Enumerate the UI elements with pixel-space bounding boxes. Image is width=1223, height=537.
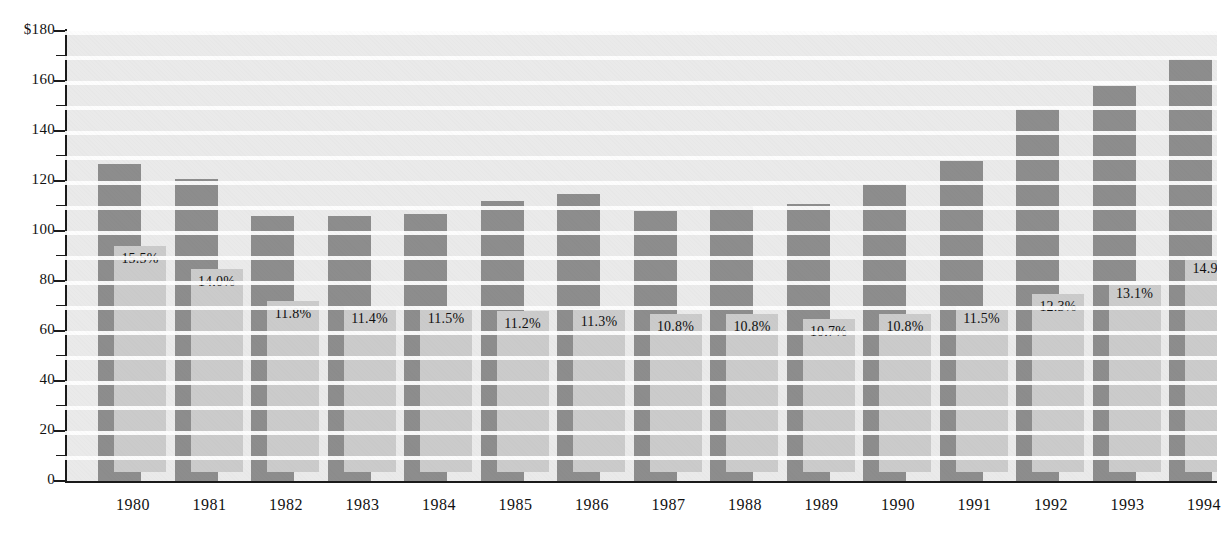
bar-subtotal: 10.8% xyxy=(726,314,778,473)
bar-group: 14.0% xyxy=(175,31,245,481)
bar-subtotal: 11.3% xyxy=(573,309,625,473)
y-tick-minor xyxy=(56,205,65,206)
bar-group: 11.5% xyxy=(940,31,1010,481)
plot-area: 15.5%14.0%11.8%11.4%11.5%11.2%11.3%10.8%… xyxy=(65,31,1217,481)
bar-group: 10.8% xyxy=(863,31,933,481)
bar-data-label: 11.2% xyxy=(497,316,549,332)
y-axis-tick-label: 120 xyxy=(0,171,55,188)
y-tick-major xyxy=(54,430,65,432)
y-tick-major xyxy=(54,130,65,132)
y-tick-major xyxy=(54,30,65,32)
y-axis-tick-label: 20 xyxy=(0,421,55,438)
y-tick-minor xyxy=(56,155,65,156)
y-axis-tick-label: $180 xyxy=(0,21,55,38)
bar-data-label: 15.5% xyxy=(114,251,166,267)
y-tick-minor xyxy=(56,405,65,406)
y-tick-major xyxy=(54,480,65,482)
y-tick-minor xyxy=(56,105,65,106)
bar-data-label: 11.8% xyxy=(267,306,319,322)
bar-data-label: 11.3% xyxy=(573,314,625,330)
y-axis-tick-label: 80 xyxy=(0,271,55,288)
y-tick-minor xyxy=(56,355,65,356)
bar-subtotal: 10.8% xyxy=(650,314,702,473)
bar-data-label: 12.3% xyxy=(1032,299,1084,315)
bar-subtotal: 10.7% xyxy=(803,319,855,473)
bar-data-label: 10.8% xyxy=(650,319,702,335)
bar-subtotal: 11.4% xyxy=(344,306,396,472)
x-axis-tick-label: 1994 xyxy=(1159,496,1223,514)
bar-group: 15.5% xyxy=(98,31,168,481)
bar-data-label: 14.0% xyxy=(191,274,243,290)
bar-subtotal: 12.3% xyxy=(1032,294,1084,473)
y-tick-major xyxy=(54,230,65,232)
bar-group: 11.4% xyxy=(328,31,398,481)
y-tick-major xyxy=(54,80,65,82)
bar-group: 10.8% xyxy=(710,31,780,481)
bar-group: 13.1% xyxy=(1093,31,1163,481)
bar-data-label: 11.5% xyxy=(420,311,472,327)
bar-group: 10.7% xyxy=(787,31,857,481)
x-axis-line xyxy=(65,481,1217,483)
y-tick-minor xyxy=(56,255,65,256)
y-tick-minor xyxy=(56,455,65,456)
y-axis-tick-label: 140 xyxy=(0,121,55,138)
y-tick-major xyxy=(54,380,65,382)
y-axis-tick-label: 100 xyxy=(0,221,55,238)
bar-subtotal: 14.9% xyxy=(1185,256,1217,472)
bar-group: 11.5% xyxy=(404,31,474,481)
bar-subtotal: 14.0% xyxy=(191,269,243,473)
y-tick-major xyxy=(54,330,65,332)
bar-data-label: 11.5% xyxy=(956,311,1008,327)
bar-group: 12.3% xyxy=(1016,31,1086,481)
y-tick-minor xyxy=(56,55,65,56)
bar-data-label: 11.4% xyxy=(344,311,396,327)
bar-subtotal: 11.5% xyxy=(420,306,472,472)
bar-subtotal: 11.2% xyxy=(497,311,549,472)
bar-subtotal: 10.8% xyxy=(879,314,931,473)
y-axis-line xyxy=(65,29,67,483)
bar-group: 10.8% xyxy=(634,31,704,481)
bar-subtotal: 11.5% xyxy=(956,306,1008,472)
bar-data-label: 14.9% xyxy=(1185,261,1217,277)
bar-data-label: 10.8% xyxy=(726,319,778,335)
y-axis-tick-label: 60 xyxy=(0,321,55,338)
y-axis-tick-label: 40 xyxy=(0,371,55,388)
bar-group: 11.8% xyxy=(251,31,321,481)
bar-group: 14.9% xyxy=(1169,31,1217,481)
y-tick-major xyxy=(54,280,65,282)
bar-chart: 15.5%14.0%11.8%11.4%11.5%11.2%11.3%10.8%… xyxy=(0,0,1223,537)
bar-data-label: 13.1% xyxy=(1109,286,1161,302)
y-tick-minor xyxy=(56,305,65,306)
bar-group: 11.3% xyxy=(557,31,627,481)
y-axis-tick-label: 0 xyxy=(0,471,55,488)
bar-data-label: 10.8% xyxy=(879,319,931,335)
bar-subtotal: 11.8% xyxy=(267,301,319,472)
y-tick-major xyxy=(54,180,65,182)
y-axis-tick-label: 160 xyxy=(0,71,55,88)
bar-group: 11.2% xyxy=(481,31,551,481)
bar-subtotal: 13.1% xyxy=(1109,281,1161,472)
bar-subtotal: 15.5% xyxy=(114,246,166,472)
bar-data-label: 10.7% xyxy=(803,324,855,340)
